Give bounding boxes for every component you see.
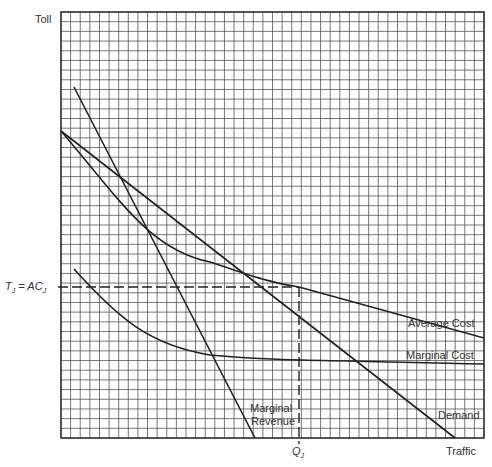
y-axis-label: Toll [35,14,52,25]
marginal-revenue-line [74,87,255,438]
toll-equilibrium-label: TJ = ACJ [5,281,46,294]
grid [61,12,484,438]
chart-canvas [0,0,492,467]
marginal-cost-label: Marginal Cost [406,350,474,361]
x-axis-label: Traffic [446,446,476,457]
average-cost-label: Average Cost [408,318,474,329]
demand-label: Demand [438,410,480,421]
traffic-equilibrium-label: QJ [292,446,304,459]
marginal-revenue-label-1: Marginal [250,403,292,414]
marginal-revenue-label-2: Revenue [251,416,295,427]
